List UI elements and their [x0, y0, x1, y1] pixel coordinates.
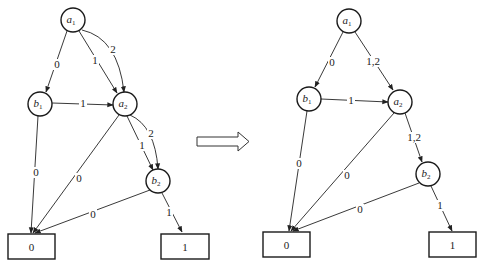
left-label-b2-one: 1: [166, 206, 172, 218]
right-label-b2-one: 1: [437, 199, 443, 211]
svg-text:0: 0: [29, 241, 35, 253]
right-label-a1-b1: 0: [329, 56, 335, 68]
right-label-b1-zero: 0: [296, 157, 302, 169]
right-node-a2: a2: [388, 90, 412, 114]
diagram-canvas: 0 1 2 1 0 0 1 2 0 1 a1 b1: [0, 0, 484, 268]
right-leaf-one: 1: [429, 232, 476, 257]
left-label-b2-zero: 0: [90, 208, 96, 220]
right-label-b2-zero: 0: [357, 203, 363, 215]
left-label-a1-a2-1: 1: [92, 54, 98, 66]
left-node-a1: a1: [61, 8, 85, 32]
right-label-b1-a2: 1: [348, 94, 354, 106]
left-label-b1-a2: 1: [80, 97, 86, 109]
right-label-a1-a2: 1,2: [366, 55, 380, 67]
right-leaf-zero: 0: [263, 232, 310, 257]
left-edge-a1-a2-2: [82, 30, 124, 92]
left-node-b1: b1: [28, 92, 52, 116]
left-label-a2-zero: 0: [76, 172, 82, 184]
svg-text:1: 1: [182, 241, 188, 253]
left-label-a2-b2-1: 1: [139, 139, 145, 151]
right-edge-labels: 0 1,2 1 0 0 1,2 0 1: [295, 55, 444, 215]
left-label-a1-b1: 0: [54, 58, 60, 70]
right-diagram: 0 1,2 1 0 0 1,2 0 1 a1 b1 a2: [263, 9, 476, 257]
right-node-b1: b1: [297, 87, 321, 111]
left-label-a1-a2-2: 2: [110, 43, 116, 55]
left-leaf-one: 1: [161, 234, 209, 259]
right-node-b2: b2: [416, 162, 440, 186]
right-edge-a2-zero: [291, 113, 394, 231]
right-edge-b1-zero: [289, 111, 307, 231]
left-label-a2-b2-2: 2: [148, 127, 154, 139]
right-label-a2-zero: 0: [344, 169, 350, 181]
right-label-a2-b2: 1,2: [407, 131, 421, 143]
svg-text:1: 1: [450, 239, 456, 251]
left-leaf-zero: 0: [8, 234, 55, 259]
left-label-b1-zero: 0: [33, 166, 39, 178]
right-node-a1: a1: [337, 9, 361, 33]
left-node-b2: b2: [146, 169, 170, 193]
left-diagram: 0 1 2 1 0 0 1 2 0 1 a1 b1: [8, 8, 209, 259]
svg-text:0: 0: [284, 239, 290, 251]
left-node-a2: a2: [113, 92, 137, 116]
transform-arrow-icon: [197, 132, 249, 151]
